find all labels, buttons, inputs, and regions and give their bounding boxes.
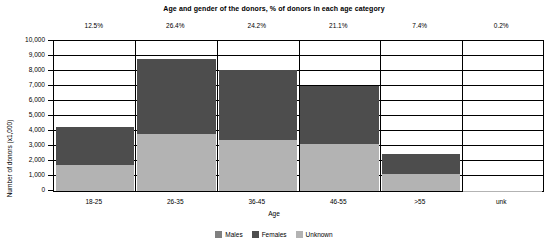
y-axis: Number of donors (x1,000) 01,0002,0003,0… — [0, 40, 53, 190]
legend-label: Females — [262, 231, 287, 238]
category-percent-labels: 12.5% 26.4% 24.2% 21.1% 7.4% 0.2% — [53, 20, 542, 32]
y-axis-tick-label: 1,000 — [29, 172, 45, 179]
category-percent-label: 12.5% — [53, 20, 135, 32]
bar-segment[interactable] — [56, 127, 135, 165]
plot-area — [53, 40, 544, 192]
y-axis-tick-label: 9,000 — [29, 52, 45, 59]
bar-segment[interactable] — [56, 165, 135, 191]
category-percent-label: 26.4% — [135, 20, 217, 32]
stacked-bar[interactable] — [56, 127, 135, 191]
x-axis-tick-label: >55 — [379, 196, 461, 208]
legend-label: Males — [225, 231, 242, 238]
bar-slot — [380, 41, 462, 191]
chart-title: Age and gender of the donors, % of donor… — [0, 5, 548, 12]
category-percent-label: 21.1% — [298, 20, 380, 32]
y-axis-tick-label: 6,000 — [29, 97, 45, 104]
y-axis-tick-label: 8,000 — [29, 67, 45, 74]
chart-legend: MalesFemalesUnknown — [0, 231, 548, 238]
bar-segment[interactable] — [219, 140, 298, 191]
legend-item[interactable]: Unknown — [296, 231, 333, 238]
y-axis-tick-label: 2,000 — [29, 157, 45, 164]
chart-container: Age and gender of the donors, % of donor… — [0, 0, 548, 252]
y-axis-tick-label: 10,000 — [25, 37, 45, 44]
bar-segment[interactable] — [137, 134, 216, 191]
x-axis-tick-label: unk — [461, 196, 543, 208]
category-percent-label: 7.4% — [379, 20, 461, 32]
bar-segment[interactable] — [300, 86, 379, 144]
y-axis-tick-label: 4,000 — [29, 127, 45, 134]
x-axis-tick-labels: 18-25 26-35 36-45 46-55 >55 unk — [53, 196, 542, 208]
bar-segment[interactable] — [300, 144, 379, 191]
bar-slot — [217, 41, 299, 191]
bar-segment[interactable] — [382, 154, 461, 174]
y-axis-tick-label: 0 — [41, 187, 45, 194]
category-percent-label: 24.2% — [216, 20, 298, 32]
bar-slot — [54, 41, 136, 191]
legend-swatch-icon — [296, 231, 303, 238]
stacked-bar[interactable] — [300, 86, 379, 191]
legend-swatch-icon — [252, 231, 259, 238]
bar-segment[interactable] — [137, 59, 216, 134]
legend-label: Unknown — [306, 231, 333, 238]
x-axis-title: Age — [0, 210, 548, 217]
x-axis-tick-label: 26-35 — [135, 196, 217, 208]
y-axis-tick-label: 5,000 — [29, 112, 45, 119]
bar-series — [54, 41, 543, 191]
category-percent-label: 0.2% — [461, 20, 543, 32]
bar-segment[interactable] — [382, 174, 461, 191]
y-axis-title: Number of donors (x1,000) — [6, 104, 13, 214]
bar-slot — [299, 41, 381, 191]
bar-slot — [462, 41, 544, 191]
legend-item[interactable]: Males — [215, 231, 242, 238]
legend-item[interactable]: Females — [252, 231, 287, 238]
bar-segment[interactable] — [219, 70, 298, 141]
y-axis-tick-label: 7,000 — [29, 82, 45, 89]
x-axis-tick-label: 36-45 — [216, 196, 298, 208]
y-axis-tick-label: 3,000 — [29, 142, 45, 149]
legend-swatch-icon — [215, 231, 222, 238]
stacked-bar[interactable] — [382, 154, 461, 192]
stacked-bar[interactable] — [137, 59, 216, 191]
bar-slot — [136, 41, 218, 191]
x-axis-tick-label: 18-25 — [53, 196, 135, 208]
stacked-bar[interactable] — [219, 70, 298, 192]
x-axis-tick-label: 46-55 — [298, 196, 380, 208]
